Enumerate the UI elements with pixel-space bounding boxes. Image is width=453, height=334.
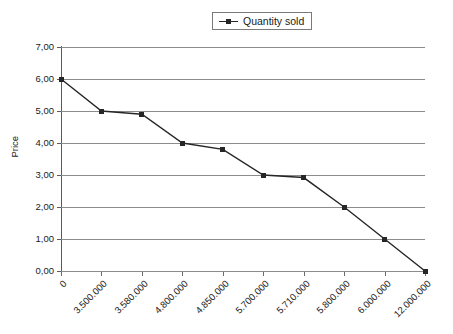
data-point-marker [342,205,347,210]
data-point-marker [59,77,64,82]
series-line-quantity-sold [0,0,453,334]
data-point-marker [99,109,104,114]
data-point-marker [220,147,225,152]
data-point-marker [382,237,387,242]
data-point-marker [139,112,144,117]
data-point-marker [261,173,266,178]
data-point-marker [423,269,428,274]
line-chart: Quantity sold Price 7,006,005,004,003,00… [0,0,453,334]
data-point-marker [301,175,306,180]
data-point-marker [180,141,185,146]
